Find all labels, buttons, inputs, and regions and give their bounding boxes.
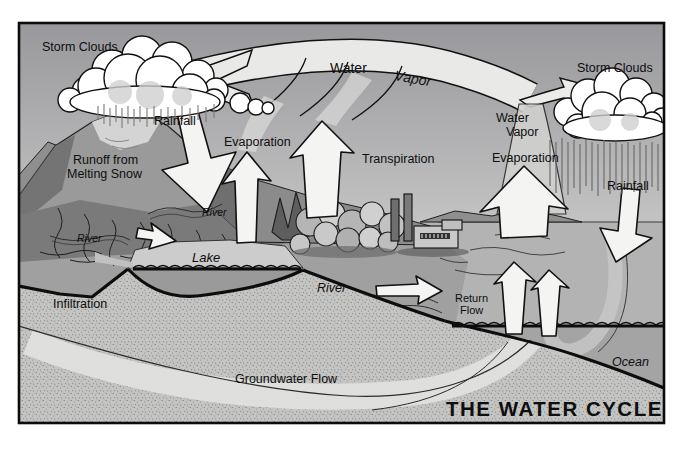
label-water-vapor-right-line1: Water bbox=[496, 111, 529, 125]
label-river-left: River bbox=[77, 232, 102, 244]
diagram-title: THE WATER CYCLE bbox=[446, 397, 663, 420]
label-river-upper: River bbox=[202, 206, 227, 218]
label-rainfall-right: Rainfall bbox=[607, 179, 649, 193]
label-rainfall-left: Rainfall bbox=[154, 114, 196, 128]
label-ocean: Ocean bbox=[612, 355, 649, 369]
label-water-vapor-right-line2: Vapor bbox=[506, 125, 538, 139]
label-evaporation-right: Evaporation bbox=[492, 151, 559, 165]
label-runoff-line1: Runoff from bbox=[73, 153, 138, 167]
label-return-flow: Return Flow bbox=[455, 292, 488, 316]
label-storm-clouds-left: Storm Clouds bbox=[42, 40, 118, 54]
label-return-flow-line2: Flow bbox=[460, 304, 483, 316]
label-runoff: Runoff from Melting Snow bbox=[67, 153, 143, 181]
label-runoff-line2: Melting Snow bbox=[67, 167, 143, 181]
label-groundwater-flow: Groundwater Flow bbox=[235, 372, 338, 386]
label-water-vapor-arc-water: Water bbox=[330, 60, 367, 76]
diagram-canvas: Storm Clouds Storm Clouds Water Vapor Ra… bbox=[0, 0, 681, 452]
label-river-center: River bbox=[317, 281, 347, 295]
label-lake: Lake bbox=[192, 250, 220, 265]
label-storm-clouds-right: Storm Clouds bbox=[577, 61, 653, 75]
water-cycle-diagram: Storm Clouds Storm Clouds Water Vapor Ra… bbox=[0, 0, 681, 452]
label-return-flow-line1: Return bbox=[455, 292, 488, 304]
label-infiltration: Infiltration bbox=[53, 297, 107, 311]
label-transpiration: Transpiration bbox=[362, 152, 435, 166]
label-evaporation-left: Evaporation bbox=[224, 135, 291, 149]
